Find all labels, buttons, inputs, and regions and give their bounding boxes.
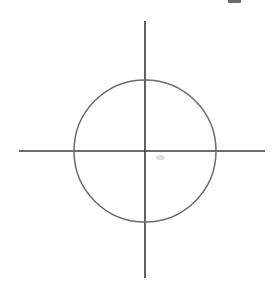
- top-edge-ink-fragment: [228, 0, 241, 3]
- center-smudge-artifact: [156, 155, 165, 160]
- figure-drawing: [0, 0, 273, 281]
- figure-canvas: [0, 0, 273, 281]
